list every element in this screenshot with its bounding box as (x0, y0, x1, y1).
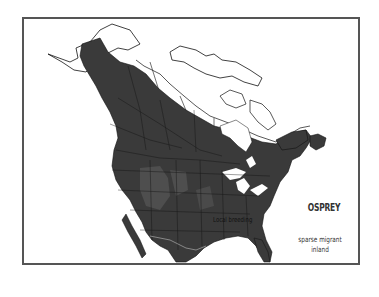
sparse-migrant-note: sparse migrant inland (286, 235, 354, 255)
note-line-2: inland (286, 245, 354, 255)
note-line-1: sparse migrant (286, 235, 354, 245)
arctic-islands-outline (170, 46, 262, 86)
map-title: OSPREY (296, 201, 352, 213)
local-breeding-label: Local breeding (213, 216, 252, 224)
